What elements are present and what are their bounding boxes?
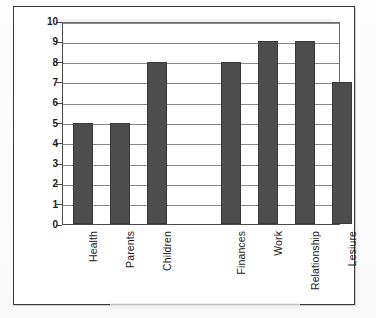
x-axis-category-label: Relationship bbox=[309, 231, 321, 290]
x-axis-category-label: Finances bbox=[235, 231, 247, 274]
x-axis-category-label: Parents bbox=[124, 231, 136, 268]
bar bbox=[110, 123, 130, 225]
bar bbox=[221, 62, 241, 224]
y-axis-tick-label: 6 bbox=[40, 98, 58, 108]
plot-area bbox=[62, 22, 340, 225]
y-axis-tick-label: 4 bbox=[40, 139, 58, 149]
bar bbox=[73, 123, 93, 225]
y-axis-tick-label: 5 bbox=[40, 119, 58, 129]
gridline bbox=[63, 23, 339, 24]
x-axis-category-label: Health bbox=[87, 231, 99, 262]
bar bbox=[147, 62, 167, 224]
bar bbox=[258, 41, 278, 224]
y-axis-tick-label: 3 bbox=[40, 159, 58, 169]
y-axis-tick-label: 2 bbox=[40, 179, 58, 189]
x-axis-category-label: Children bbox=[161, 231, 173, 271]
bar bbox=[295, 41, 315, 224]
y-axis-tick-label: 9 bbox=[40, 37, 58, 47]
scan-artifact bbox=[110, 303, 300, 309]
bar bbox=[332, 82, 352, 224]
y-axis-tick-label: 0 bbox=[40, 220, 58, 230]
y-axis-tick-label: 8 bbox=[40, 58, 58, 68]
y-axis-tick-label: 1 bbox=[40, 200, 58, 210]
y-axis-tick-label: 7 bbox=[40, 78, 58, 88]
x-axis-category-label: Lesiure bbox=[346, 231, 358, 266]
x-axis-category-label: Work bbox=[272, 231, 284, 256]
y-axis-tick-label: 10 bbox=[40, 17, 58, 27]
